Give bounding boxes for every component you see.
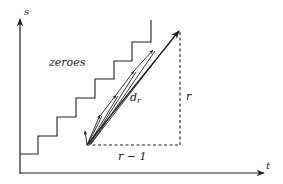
x-axis-label: t (266, 160, 271, 171)
vertical-leg-label: r (186, 90, 192, 103)
diagram-canvas: s t zeroes dr r r − 1 (0, 0, 283, 184)
step-arrows (85, 34, 176, 145)
zeroes-label: zeroes (48, 56, 86, 69)
diagonal-label: dr (130, 91, 142, 105)
horizontal-leg-label: r − 1 (118, 150, 146, 163)
y-axis-label: s (24, 6, 29, 17)
